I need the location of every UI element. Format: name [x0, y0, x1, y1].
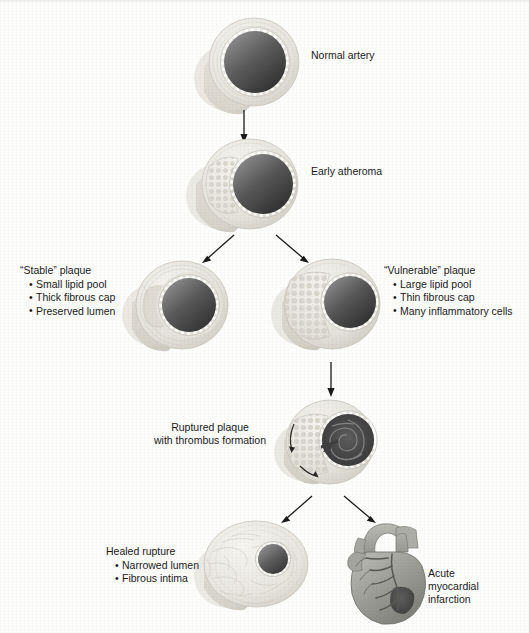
stable-plaque-bullet-list: Small lipid pool Thick fibrous cap Prese…	[20, 278, 115, 318]
list-item: Small lipid pool	[29, 278, 115, 291]
vulnerable-plaque-bullet-list: Large lipid pool Thin fibrous cap Many i…	[384, 278, 513, 318]
ami-label-line2: myocardial	[428, 580, 479, 593]
vulnerable-plaque-label-text: “Vulnerable” plaque	[384, 264, 513, 277]
ami-label-line1: Acute	[428, 567, 479, 580]
list-item: Preserved lumen	[29, 305, 115, 318]
list-item: Fibrous intima	[115, 572, 199, 585]
arrow-vulnerable-to-ruptured	[324, 362, 338, 398]
healed-rupture-illustration	[188, 518, 324, 622]
ruptured-plaque-label-line1: Ruptured plaque	[146, 421, 274, 434]
ruptured-plaque-label: Ruptured plaque with thrombus formation	[146, 421, 274, 447]
stable-plaque-label-text: “Stable” plaque	[20, 264, 115, 277]
early-atheroma-label: Early atheroma	[311, 165, 382, 178]
normal-artery-label-text: Normal artery	[311, 49, 375, 62]
vulnerable-plaque-illustration	[268, 252, 398, 362]
heart-illustration	[338, 522, 442, 630]
atherosclerosis-diagram: Normal artery	[0, 0, 529, 633]
normal-artery-illustration	[186, 8, 326, 128]
list-item: Many inflammatory cells	[393, 305, 513, 318]
early-atheroma-illustration	[180, 132, 325, 242]
healed-rupture-label-text: Healed rupture	[106, 545, 199, 558]
list-item: Large lipid pool	[393, 278, 513, 291]
list-item: Thin fibrous cap	[393, 291, 513, 304]
normal-artery-label: Normal artery	[311, 49, 375, 62]
early-atheroma-label-text: Early atheroma	[311, 165, 382, 178]
list-item: Thick fibrous cap	[29, 291, 115, 304]
healed-rupture-bullet-list: Narrowed lumen Fibrous intima	[106, 559, 199, 585]
stable-plaque-label: “Stable” plaque Small lipid pool Thick f…	[20, 264, 115, 318]
acute-myocardial-infarction-label: Acute myocardial infarction	[428, 567, 479, 607]
ruptured-plaque-label-line2: with thrombus formation	[146, 434, 274, 447]
vulnerable-plaque-label: “Vulnerable” plaque Large lipid pool Thi…	[384, 264, 513, 318]
ruptured-plaque-illustration	[272, 396, 394, 492]
stable-plaque-illustration	[118, 255, 248, 363]
ami-label-line3: infarction	[428, 593, 479, 606]
healed-rupture-label: Healed rupture Narrowed lumen Fibrous in…	[106, 545, 199, 586]
list-item: Narrowed lumen	[115, 559, 199, 572]
